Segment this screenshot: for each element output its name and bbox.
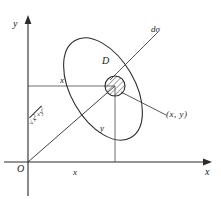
region-label: D: [102, 56, 109, 66]
origin-label: O: [17, 164, 24, 174]
point-label: (x, y): [166, 110, 187, 119]
y-projection-label: y: [100, 124, 104, 133]
label-overlay: y x O D dσ (x, y) x x y √x2+y2: [0, 0, 221, 199]
y-axis-label: y: [13, 19, 17, 29]
area-element-label: dσ: [151, 25, 160, 34]
x-axis-segment-label: x: [73, 168, 77, 177]
x-axis-label: x: [205, 167, 209, 177]
radius-label: √x2+y2: [27, 106, 48, 127]
x-projection-label: x: [60, 76, 64, 85]
figure-canvas: y x O D dσ (x, y) x x y √x2+y2: [0, 0, 221, 199]
